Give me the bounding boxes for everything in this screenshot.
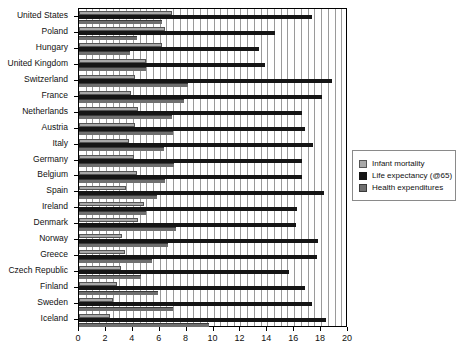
bar-2 [79,179,165,183]
bar-group [79,89,346,105]
bar-group [79,264,346,280]
bar-group [79,296,346,312]
bar-group [79,200,346,216]
bar-2 [79,163,174,167]
x-axis-tick [213,327,214,331]
x-axis-tick-label: 2 [102,333,107,343]
y-axis-label: Ireland [42,202,68,211]
chart-legend: Infant mortalityLife expectancy (@65)Hea… [352,150,456,201]
bar-2 [79,83,188,87]
bar-2 [79,36,137,40]
bar-group [79,216,346,232]
bar-group [79,25,346,41]
x-axis-tick-label: 4 [129,333,134,343]
bar-group [79,73,346,89]
y-axis-label: Greece [40,250,68,259]
x-axis-tick [320,327,321,331]
bar-2 [79,131,173,135]
x-axis-tick-label: 12 [234,333,244,343]
x-axis-tick-label: 20 [342,333,352,343]
bar-group [79,280,346,296]
bar-2 [79,307,173,311]
legend-swatch-icon [359,184,367,192]
x-axis-tick-label: 16 [288,333,298,343]
x-axis-tick-label: 0 [75,333,80,343]
bar-2 [79,115,172,119]
bar-group [79,57,346,73]
bar-2 [79,259,152,263]
bar-group [79,232,346,248]
x-axis-tick-label: 14 [261,333,271,343]
x-axis-tick [266,327,267,331]
x-axis-tick [78,327,79,331]
chart-container: United StatesPolandHungaryUnited Kingdom… [0,0,465,362]
legend-swatch-icon [359,172,367,180]
x-axis-tick [159,327,160,331]
bar-2 [79,291,158,295]
legend-item[interactable]: Health expenditures [359,183,450,192]
plot-area [78,8,347,327]
y-axis-label: Finland [40,282,68,291]
y-axis-label: Sweden [37,298,68,307]
x-axis-tick [186,327,187,331]
y-axis-label: Netherlands [22,107,68,116]
legend-label: Health expenditures [372,183,443,192]
bar-group [79,137,346,153]
y-axis-label: France [42,91,68,100]
y-axis-label: United States [17,11,68,20]
y-axis-label: Czech Republic [8,266,68,275]
y-axis-label: Belgium [37,170,68,179]
x-axis-tick-label: 8 [183,333,188,343]
bar-group [79,153,346,169]
y-axis-label: Poland [42,27,68,36]
y-axis-label: Spain [46,186,68,195]
y-axis-label: Austria [42,123,68,132]
x-axis-tick-label: 18 [315,333,325,343]
x-axis-tick-label: 10 [207,333,217,343]
y-axis-label: Norway [39,234,68,243]
x-axis-tick-label: 6 [156,333,161,343]
y-axis-category-labels: United StatesPolandHungaryUnited Kingdom… [0,8,74,327]
bar-group [79,169,346,185]
bar-rows [79,9,346,326]
bar-2 [79,275,141,279]
bar-group [79,41,346,57]
bar-group [79,105,346,121]
x-axis-tick [347,327,348,331]
legend-label: Infant mortality [372,159,424,168]
bar-group [79,9,346,25]
bar-2 [79,227,176,231]
y-axis-label: Italy [52,139,68,148]
legend-swatch-icon [359,160,367,168]
bar-2 [79,147,164,151]
y-axis-label: Germany [33,155,68,164]
bar-2 [79,195,157,199]
bar-group [79,184,346,200]
bar-2 [79,51,130,55]
y-axis-label: Switzerland [24,75,68,84]
y-axis-label: Iceland [41,314,68,323]
x-axis: 02468101214161820 [78,327,347,349]
x-axis-tick [239,327,240,331]
x-axis-tick [132,327,133,331]
y-axis-label: Hungary [36,43,68,52]
x-axis-tick [105,327,106,331]
bar-group [79,121,346,137]
bar-2 [79,99,184,103]
legend-label: Life expectancy (@65) [372,171,452,180]
y-axis-label: Denmark [34,218,68,227]
y-axis-label: United Kingdom [8,59,68,68]
bar-2 [79,211,146,215]
x-axis-tick [293,327,294,331]
bar-2 [79,243,168,247]
bar-group [79,312,346,328]
legend-item[interactable]: Life expectancy (@65) [359,171,450,180]
bar-2 [79,20,162,24]
bar-group [79,248,346,264]
bar-2 [79,67,146,71]
legend-item[interactable]: Infant mortality [359,159,450,168]
